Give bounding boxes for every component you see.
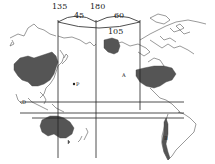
arctic-islands <box>150 14 170 24</box>
point-label-b: B <box>164 135 168 141</box>
shaded-regions <box>14 38 176 160</box>
lon-label-135: 135 <box>52 2 67 11</box>
parallels <box>20 102 184 118</box>
meridians <box>58 20 140 158</box>
siberia-coast <box>58 36 96 46</box>
new-zealand <box>84 128 88 140</box>
south-america-east <box>168 112 196 160</box>
world-map: 135 180 45 60 105 A B D P <box>0 0 215 164</box>
arc-label-45: 45 <box>74 11 84 20</box>
arc-label-60: 60 <box>114 11 124 20</box>
asia-north-coast <box>10 24 56 38</box>
arc-label-105: 105 <box>108 27 123 36</box>
point-label-d: D <box>22 99 26 105</box>
tasmania-shape <box>68 140 70 144</box>
point-p-marker <box>73 83 75 85</box>
china-shape <box>14 52 58 86</box>
lon-label-180: 180 <box>90 2 105 11</box>
australia-shape <box>40 116 74 138</box>
alaska-shape <box>104 38 120 54</box>
indonesia <box>28 98 48 110</box>
point-label-a: A <box>121 72 126 78</box>
europe-coast <box>150 40 194 54</box>
arc-135-240 <box>58 22 140 28</box>
europe-north <box>140 20 206 40</box>
point-label-p: P <box>76 81 80 87</box>
usa-shape <box>136 66 176 88</box>
central-america <box>150 88 180 112</box>
arcs <box>58 16 140 28</box>
